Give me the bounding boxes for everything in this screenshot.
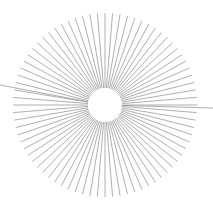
center-hole — [88, 88, 122, 122]
radial-burst-chart — [0, 0, 213, 207]
figure-container — [0, 0, 213, 207]
